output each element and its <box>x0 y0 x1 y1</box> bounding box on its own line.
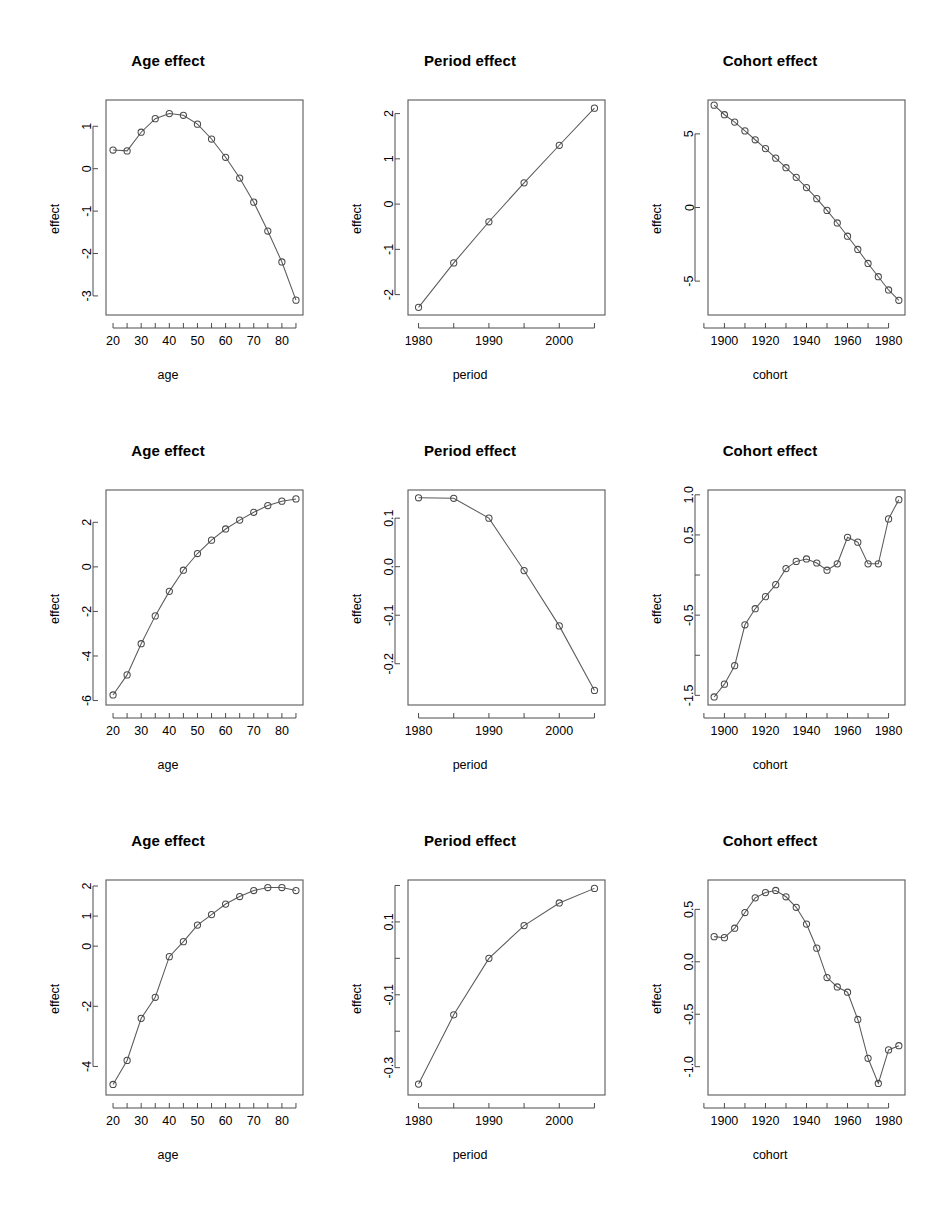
x-tick-label: 70 <box>247 724 261 738</box>
x-tick-label: 30 <box>134 724 148 738</box>
plot-area: 1980199020000.10.0-0.1-0.2 <box>320 428 620 758</box>
plot-area: 1900192019401960198050-5 <box>620 38 920 368</box>
plot-area: 2030405060708020-2-4-6 <box>18 428 318 758</box>
plot-frame <box>106 490 303 705</box>
plot-area: 190019201940196019800.50.0-0.5-1.0 <box>620 818 920 1148</box>
series-line <box>714 105 899 300</box>
y-tick-label: 2 <box>81 882 95 889</box>
y-tick-label: -0.5 <box>683 1003 697 1025</box>
x-tick-label: 1900 <box>711 1114 739 1128</box>
y-tick-label: 0 <box>683 204 697 211</box>
y-tick-label: -0.3 <box>383 1057 397 1079</box>
plot-area: 2030405060708010-1-2-3 <box>18 38 318 368</box>
x-tick-label: 40 <box>162 724 176 738</box>
y-tick-label: -6 <box>81 695 95 706</box>
y-tick-label: -1 <box>383 244 397 255</box>
x-tick-label: 20 <box>106 1114 120 1128</box>
series-line <box>419 498 595 691</box>
x-tick-label: 30 <box>134 334 148 348</box>
series-line <box>714 500 899 697</box>
x-tick-label: 80 <box>275 1114 289 1128</box>
chart-panel: Period effectperiodeffect198019902000210… <box>320 38 620 428</box>
x-axis-label: cohort <box>620 758 920 772</box>
x-tick-label: 40 <box>162 334 176 348</box>
y-tick-label: -1.0 <box>683 1056 697 1078</box>
x-tick-label: 30 <box>134 1114 148 1128</box>
figure-grid: Age effectageeffect2030405060708010-1-2-… <box>0 0 938 1218</box>
y-tick-label: -0.2 <box>383 653 397 675</box>
x-tick-label: 1940 <box>793 724 821 738</box>
series-line <box>714 890 899 1083</box>
x-tick-label: 1990 <box>475 334 503 348</box>
x-tick-label: 50 <box>191 334 205 348</box>
y-tick-label: 0.1 <box>383 913 397 930</box>
x-tick-label: 80 <box>275 724 289 738</box>
x-tick-label: 1960 <box>834 334 862 348</box>
y-tick-label: -1 <box>81 206 95 217</box>
y-tick-label: 0.0 <box>683 953 697 970</box>
chart-panel: Period effectperiodeffect1980199020000.1… <box>320 818 620 1208</box>
x-tick-label: 1960 <box>834 1114 862 1128</box>
chart-panel: Period effectperiodeffect1980199020000.1… <box>320 428 620 818</box>
plot-frame <box>708 490 905 705</box>
x-tick-label: 40 <box>162 1114 176 1128</box>
x-tick-label: 1940 <box>793 334 821 348</box>
y-tick-label: 0.5 <box>683 901 697 918</box>
chart-panel: Age effectageeffect2030405060708020-2-4-… <box>18 428 318 818</box>
x-axis-label: age <box>18 1148 318 1162</box>
series-line <box>419 108 595 307</box>
x-tick-label: 1980 <box>875 724 903 738</box>
x-tick-label: 1980 <box>405 334 433 348</box>
x-tick-label: 60 <box>219 724 233 738</box>
x-tick-label: 20 <box>106 724 120 738</box>
x-tick-label: 2000 <box>545 724 573 738</box>
data-point <box>415 304 421 310</box>
plot-frame <box>408 880 605 1095</box>
series-line <box>113 114 296 301</box>
chart-panel: Cohort effectcohorteffect190019201940196… <box>620 428 920 818</box>
x-tick-label: 1980 <box>405 724 433 738</box>
x-tick-label: 1920 <box>752 1114 780 1128</box>
x-tick-label: 1980 <box>875 334 903 348</box>
y-tick-label: -2 <box>81 1001 95 1012</box>
x-axis-label: cohort <box>620 1148 920 1162</box>
y-tick-label: 1.0 <box>683 486 697 503</box>
x-tick-label: 1990 <box>475 724 503 738</box>
x-tick-label: 1960 <box>834 724 862 738</box>
x-tick-label: 1980 <box>405 1114 433 1128</box>
x-tick-label: 20 <box>106 334 120 348</box>
y-tick-label: -2 <box>81 248 95 259</box>
x-axis-label: period <box>320 758 620 772</box>
y-tick-label: -2 <box>81 606 95 617</box>
x-tick-label: 1920 <box>752 334 780 348</box>
x-tick-label: 1980 <box>875 1114 903 1128</box>
plot-area: 190019201940196019801.00.5-0.5-1.5 <box>620 428 920 758</box>
plot-area: 20304050607080210-2-4 <box>18 818 318 1148</box>
y-tick-label: 0 <box>81 165 95 172</box>
plot-frame <box>708 100 905 315</box>
series-line <box>113 888 296 1085</box>
y-tick-label: -1.5 <box>683 685 697 707</box>
y-tick-label: 0 <box>383 201 397 208</box>
y-tick-label: 1 <box>81 123 95 130</box>
x-tick-label: 50 <box>191 724 205 738</box>
plot-frame <box>408 490 605 705</box>
y-tick-label: -4 <box>81 650 95 661</box>
y-tick-label: 0.1 <box>383 509 397 526</box>
series-line <box>419 888 595 1084</box>
chart-panel: Cohort effectcohorteffect190019201940196… <box>620 818 920 1208</box>
y-tick-label: -3 <box>81 290 95 301</box>
x-axis-label: cohort <box>620 368 920 382</box>
x-tick-label: 1940 <box>793 1114 821 1128</box>
y-tick-label: 0.0 <box>383 558 397 575</box>
data-point <box>415 1081 421 1087</box>
x-axis-label: age <box>18 368 318 382</box>
x-tick-label: 1990 <box>475 1114 503 1128</box>
plot-area: 1980199020000.1-0.1-0.3 <box>320 818 620 1148</box>
x-tick-label: 70 <box>247 1114 261 1128</box>
plot-frame <box>106 880 303 1095</box>
chart-panel: Age effectageeffect2030405060708010-1-2-… <box>18 38 318 428</box>
x-tick-label: 80 <box>275 334 289 348</box>
y-tick-label: -0.1 <box>383 604 397 626</box>
x-tick-label: 1920 <box>752 724 780 738</box>
